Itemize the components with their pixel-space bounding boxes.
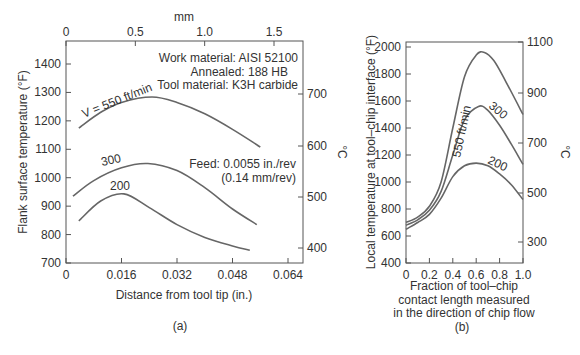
panel-a-x2-label: mm	[174, 10, 194, 24]
panel-a-x-label: Distance from tool tip (in.)	[116, 288, 253, 302]
y-tick-label: 1000	[374, 175, 401, 189]
y-tick-label: 800	[381, 202, 401, 216]
annotation-annealed: Annealed: 188 HB	[191, 65, 288, 79]
y2-tick-label: 300	[527, 235, 547, 249]
y-tick-label: 1100	[35, 142, 61, 156]
y2-tick-label: 500	[307, 190, 327, 204]
figure: 00.0160.0320.0480.0647008009001000110012…	[0, 0, 580, 355]
x-tick-label: 0.064	[273, 268, 303, 282]
y2-tick-label: 700	[527, 136, 547, 150]
panel-b-x-label-line1: Fraction of tool–chip	[410, 279, 518, 293]
y2-tick-label: 400	[307, 241, 327, 255]
y-tick-label: 400	[381, 256, 401, 270]
panel-a-chart: 00.0160.0320.0480.0647008009001000110012…	[16, 10, 349, 333]
curve-label-200-b: 200	[486, 153, 510, 174]
panel-b-chart: 00.20.40.60.81.0400600800100012001400160…	[364, 35, 572, 334]
panel-b-y-label: Local temperature at tool–chip interface…	[364, 35, 378, 269]
y-tick-label: 700	[41, 256, 61, 270]
panel-a-y2-label: °C	[335, 145, 349, 159]
panel-b-ticks: 00.20.40.60.81.0400600800100012001400160…	[374, 35, 553, 282]
x2-tick-label: 1.0	[196, 25, 213, 39]
y-tick-label: 1400	[34, 57, 61, 71]
x-tick-label: 0.048	[217, 268, 247, 282]
y-tick-label: 1600	[374, 94, 401, 108]
y-tick-label: 1200	[34, 114, 61, 128]
caption-a: (a)	[173, 319, 188, 333]
annotation-work-material: Work material: AISI 52100	[159, 51, 299, 65]
y2-tick-label: 500	[527, 186, 547, 200]
curve-label-550: V = 550 ft/min	[80, 80, 154, 121]
annotation-feed-mm: (0.14 mm/rev)	[221, 171, 296, 185]
y-tick-label: 800	[41, 228, 61, 242]
y-tick-label: 1300	[34, 85, 61, 99]
curve-label-200: 200	[110, 179, 130, 193]
y2-tick-label: 700	[307, 87, 327, 101]
caption-b: (b)	[455, 320, 470, 334]
panel-b-x-label-line2: contact length measured	[398, 293, 529, 307]
y-tick-label: 1400	[374, 121, 401, 135]
y-tick-label: 900	[41, 199, 61, 213]
series-line	[406, 163, 523, 229]
annotation-feed: Feed: 0.0055 in./rev	[189, 157, 296, 171]
y-tick-label: 600	[381, 229, 401, 243]
x-tick-label: 0	[63, 268, 70, 282]
y-tick-label: 2000	[374, 40, 401, 54]
y2-tick-label: 1100	[527, 35, 553, 49]
y2-tick-label: 900	[527, 86, 547, 100]
y-tick-label: 1800	[374, 67, 401, 81]
panel-a-y-label: Flank surface temperature (°F)	[16, 70, 30, 234]
curve-label-300-b: 300	[486, 99, 511, 123]
x2-tick-label: 1.5	[266, 25, 283, 39]
panel-b-y2-label: °C	[558, 145, 572, 159]
y2-tick-label: 600	[307, 139, 327, 153]
x-tick-label: 0.016	[106, 268, 136, 282]
x2-tick-label: 0	[63, 25, 70, 39]
annotation-tool-material: Tool material: K3H carbide	[157, 78, 298, 92]
panel-b-x-label-line3: in the direction of chip flow	[393, 306, 535, 320]
x2-tick-label: 0.5	[127, 25, 144, 39]
curve-label-550-b: 550 ft/min	[449, 104, 474, 158]
y-tick-label: 1200	[374, 148, 401, 162]
x-tick-label: 0.032	[162, 268, 192, 282]
y-tick-label: 1000	[34, 171, 61, 185]
curve-label-300: 300	[100, 151, 123, 169]
x-tick-label: 0	[403, 268, 410, 282]
